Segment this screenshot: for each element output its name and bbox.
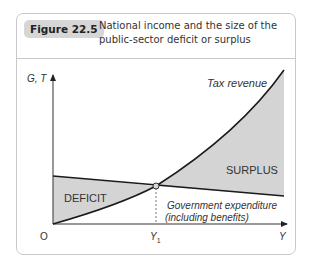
intersection-point — [153, 183, 159, 189]
chart-area: G, T O Y Y1 Tax revenue Government expen… — [0, 0, 313, 269]
tax-revenue-label: Tax revenue — [207, 77, 267, 89]
origin-label: O — [40, 231, 48, 242]
surplus-label: SURPLUS — [226, 164, 278, 176]
government-expenditure-label: Government expenditure — [167, 200, 278, 211]
y1-tick-label: Y1 — [150, 231, 161, 244]
x-axis-label: Y — [279, 231, 287, 242]
deficit-label: DEFICIT — [64, 192, 107, 204]
government-expenditure-sublabel: (including benefits) — [165, 212, 249, 223]
y-axis-label: G, T — [27, 73, 47, 84]
